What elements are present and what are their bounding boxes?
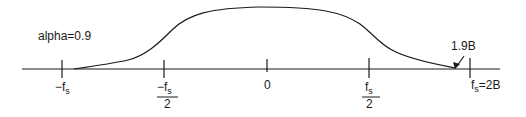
spectrum-diagram: alpha=0.9 1.9B −fs −fs 2 0 fs 2 fs=2B [0, 0, 526, 117]
spectrum-curve [74, 7, 456, 69]
alpha-annotation: alpha=0.9 [38, 29, 91, 43]
svg-text:2: 2 [164, 97, 171, 111]
svg-text:fs=2B: fs=2B [471, 78, 501, 94]
svg-text:−fs: −fs [157, 80, 172, 96]
label-neg-fs-half: −fs 2 [157, 80, 178, 111]
svg-text:2: 2 [366, 97, 373, 111]
label-fs-half: fs 2 [362, 80, 380, 111]
svg-text:0: 0 [264, 78, 271, 92]
label-zero: 0 [264, 78, 271, 92]
label-neg-fs: −fs [55, 80, 70, 96]
svg-text:−fs: −fs [55, 80, 70, 96]
label-fs: fs=2B [471, 78, 501, 94]
arrow-label: 1.9B [451, 39, 476, 53]
svg-text:fs: fs [365, 80, 373, 96]
